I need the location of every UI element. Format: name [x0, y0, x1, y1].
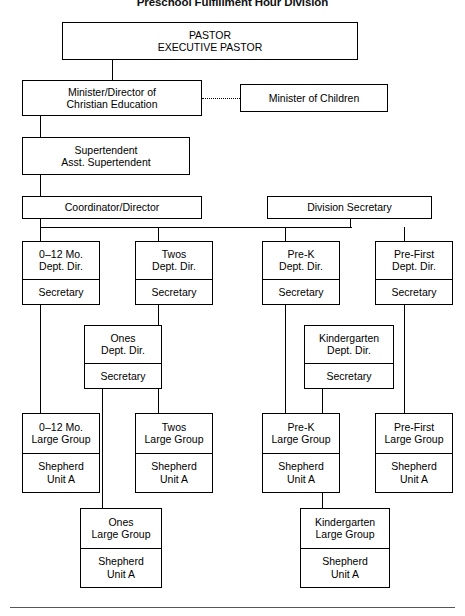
node-dept-pre-k-text: Secretary — [279, 286, 324, 299]
node-dept-pre-first-text: Secretary — [392, 286, 437, 299]
node-dept-ones-text: Dept. Dir. — [101, 344, 145, 357]
node-group-0-12-mo-cell-0: 0–12 Mo.Large Group — [23, 414, 99, 453]
node-pastor-text: PASTOR — [189, 29, 231, 42]
node-group-pre-k-text: Pre-K — [288, 421, 315, 434]
node-group-twos-text: Large Group — [145, 433, 204, 446]
conn-cedu-down — [40, 116, 41, 137]
node-dept-pre-first-cell-1: Secretary — [376, 279, 452, 304]
node-dept-twos-cell-1: Secretary — [136, 279, 212, 304]
node-dept-0-12-mo-cell-0: 0–12 Mo.Dept. Dir. — [23, 242, 99, 279]
node-dept-ones-text: Secretary — [101, 370, 146, 383]
org-chart-canvas: Preschool Fulfillment Hour Division PAST… — [0, 0, 465, 616]
node-group-twos-text: Twos — [162, 421, 187, 434]
node-group-0-12-mo-text: 0–12 Mo. — [39, 421, 83, 434]
node-dept-pre-k-text: Pre-K — [288, 248, 315, 261]
node-dept-ones-text: Ones — [110, 332, 135, 345]
conn-pastor-down — [112, 60, 113, 80]
node-group-ones-text: Unit A — [107, 568, 135, 581]
node-group-pre-k-text: Unit A — [287, 473, 315, 486]
node-dept-twos: TwosDept. Dir.Secretary — [135, 241, 213, 305]
node-group-kindergarten-text: Shepherd — [322, 555, 368, 568]
node-group-pre-k-cell-0: Pre-KLarge Group — [263, 414, 339, 453]
node-group-twos-text: Shepherd — [151, 460, 197, 473]
node-dept-0-12-mo-cell-1: Secretary — [23, 279, 99, 304]
conn-supertendent-down — [40, 175, 41, 196]
node-minister-of-children: Minister of Children — [240, 84, 388, 112]
node-group-pre-first-text: Large Group — [385, 433, 444, 446]
node-minister-of-christian-education: Minister/Director ofChristian Education — [22, 80, 202, 116]
node-dept-pre-k-cell-0: Pre-KDept. Dir. — [263, 242, 339, 279]
node-group-twos: TwosLarge GroupShepherdUnit A — [135, 413, 213, 493]
node-pastor-text: EXECUTIVE PASTOR — [158, 41, 263, 54]
node-group-pre-first-text: Unit A — [400, 473, 428, 486]
node-dept-pre-first-text: Dept. Dir. — [392, 260, 436, 273]
node-group-pre-k-cell-1: ShepherdUnit A — [263, 453, 339, 493]
node-dept-kindergarten-text: Dept. Dir. — [327, 344, 371, 357]
node-dept-pre-first-cell-0: Pre-FirstDept. Dir. — [376, 242, 452, 279]
footer-rule — [10, 607, 455, 608]
node-supertendent-text: Asst. Supertendent — [61, 156, 150, 169]
node-group-0-12-mo-cell-1: ShepherdUnit A — [23, 453, 99, 493]
node-supertendent-cell-0: SupertendentAsst. Supertendent — [23, 138, 189, 174]
conn-coordinator-down — [40, 219, 41, 227]
node-group-kindergarten-cell-1: ShepherdUnit A — [301, 548, 389, 588]
node-dept-kindergarten-cell-1: Secretary — [305, 363, 393, 388]
node-dept-0-12-mo-text: 0–12 Mo. — [39, 248, 83, 261]
node-minister-of-christian-education-cell-0: Minister/Director ofChristian Education — [23, 81, 201, 115]
conn-dept-pre-k-up — [285, 227, 286, 241]
conn-dept-twos-up — [158, 227, 159, 241]
node-dept-pre-first-text: Pre-First — [394, 248, 434, 261]
node-coordinator-director: Coordinator/Director — [22, 196, 202, 219]
node-group-ones-text: Shepherd — [98, 555, 144, 568]
node-division-secretary-cell-0: Division Secretary — [268, 197, 431, 218]
node-dept-pre-k: Pre-KDept. Dir.Secretary — [262, 241, 340, 305]
node-group-pre-first-text: Shepherd — [391, 460, 437, 473]
node-group-kindergarten-text: Large Group — [316, 528, 375, 541]
node-group-ones: OnesLarge GroupShepherdUnit A — [80, 508, 162, 588]
node-dept-pre-k-cell-1: Secretary — [263, 279, 339, 304]
node-minister-of-christian-education-text: Christian Education — [66, 98, 157, 111]
node-coordinator-director-cell-0: Coordinator/Director — [23, 197, 201, 218]
node-dept-kindergarten-cell-0: KindergartenDept. Dir. — [305, 326, 393, 363]
node-coordinator-director-text: Coordinator/Director — [65, 201, 160, 214]
node-group-ones-text: Ones — [108, 516, 133, 529]
node-group-pre-k: Pre-KLarge GroupShepherdUnit A — [262, 413, 340, 493]
node-dept-pre-first: Pre-FirstDept. Dir.Secretary — [375, 241, 453, 305]
node-dept-ones-cell-0: OnesDept. Dir. — [85, 326, 161, 363]
node-group-0-12-mo-text: Shepherd — [38, 460, 84, 473]
node-group-pre-first: Pre-FirstLarge GroupShepherdUnit A — [375, 413, 453, 493]
node-group-ones-cell-1: ShepherdUnit A — [81, 548, 161, 588]
node-dept-twos-text: Dept. Dir. — [152, 260, 196, 273]
node-dept-0-12-mo-text: Secretary — [39, 286, 84, 299]
node-group-pre-first-cell-1: ShepherdUnit A — [376, 453, 452, 493]
node-pastor: PASTOREXECUTIVE PASTOR — [62, 22, 358, 60]
node-group-pre-first-text: Pre-First — [394, 421, 434, 434]
node-supertendent: SupertendentAsst. Supertendent — [22, 137, 190, 175]
node-group-0-12-mo-text: Unit A — [47, 473, 75, 486]
node-dept-kindergarten-text: Secretary — [327, 370, 372, 383]
node-pastor-cell-0: PASTOREXECUTIVE PASTOR — [63, 23, 357, 59]
conn-dept-pre-first-up — [404, 227, 405, 241]
node-dept-twos-text: Secretary — [152, 286, 197, 299]
page-title: Preschool Fulfillment Hour Division — [0, 0, 465, 8]
node-minister-of-children-cell-0: Minister of Children — [241, 85, 387, 111]
conn-ones-dept-drop — [102, 389, 103, 508]
node-dept-pre-k-text: Dept. Dir. — [279, 260, 323, 273]
node-minister-of-children-text: Minister of Children — [269, 92, 359, 105]
conn-dotted-cedu-to-children — [202, 98, 240, 99]
conn-dept-0-12mo-up — [40, 227, 41, 241]
node-dept-0-12-mo-text: Dept. Dir. — [39, 260, 83, 273]
node-supertendent-text: Supertendent — [74, 144, 137, 157]
node-group-0-12-mo-text: Large Group — [32, 433, 91, 446]
node-division-secretary: Division Secretary — [267, 196, 432, 219]
conn-left-spine — [40, 305, 41, 413]
node-group-kindergarten-text: Kindergarten — [315, 516, 375, 529]
node-dept-ones-cell-1: Secretary — [85, 363, 161, 388]
node-group-kindergarten-text: Unit A — [331, 568, 359, 581]
node-group-0-12-mo: 0–12 Mo.Large GroupShepherdUnit A — [22, 413, 100, 493]
node-minister-of-christian-education-text: Minister/Director of — [68, 86, 156, 99]
node-division-secretary-text: Division Secretary — [307, 201, 392, 214]
conn-pre-first-spine — [404, 305, 405, 413]
node-group-pre-k-text: Shepherd — [278, 460, 324, 473]
conn-division-secretary-up — [350, 219, 351, 227]
